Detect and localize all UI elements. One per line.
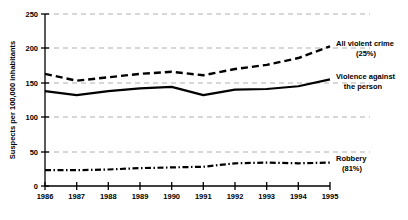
y-tick-label-50: 50 <box>30 148 38 157</box>
y-tick-label-250: 250 <box>25 10 38 19</box>
x-tick-label-1988: 1988 <box>100 192 117 201</box>
x-tick-label-1992: 1992 <box>227 192 244 201</box>
x-tick-label-1986: 1986 <box>37 192 54 201</box>
chart-container: 250 200 150 100 50 0 Suspects per 100,00… <box>0 0 408 220</box>
legend-label-violence-against-the-person-line1: Violence against <box>336 72 396 81</box>
line-chart: 250 200 150 100 50 0 Suspects per 100,00… <box>0 0 408 220</box>
y-tick-label-0: 0 <box>34 182 38 191</box>
x-tick-label-1991: 1991 <box>195 192 212 201</box>
x-tick-label-1995: 1995 <box>322 192 339 201</box>
legend-robbery: Robbery (81%) <box>336 154 367 173</box>
legend-label-robbery-line1: Robbery <box>336 154 367 163</box>
x-tick-label-1993: 1993 <box>258 192 275 201</box>
series-line-robbery <box>45 163 330 171</box>
legend-label-all-violent-crime-line1: All violent crime <box>336 39 394 48</box>
y-axis-title: Suspects per 100,000 inhabitants <box>8 41 17 159</box>
gridlines <box>45 14 370 152</box>
series-line-violence-against-the-person <box>45 79 330 95</box>
legend-label-robbery-line2: (81%) <box>342 164 363 173</box>
x-tick-label-1989: 1989 <box>132 192 149 201</box>
series-line-all-violent-crime <box>45 46 330 80</box>
legend-label-all-violent-crime-line2: (25%) <box>356 49 377 58</box>
x-tick-label-1987: 1987 <box>68 192 85 201</box>
y-tick-label-100: 100 <box>25 113 38 122</box>
y-tick-label-150: 150 <box>25 79 38 88</box>
x-tick-label-1990: 1990 <box>163 192 180 201</box>
x-tick-label-1994: 1994 <box>290 192 308 201</box>
legend-violence-against-the-person: Violence against the person <box>336 72 396 91</box>
y-tick-label-200: 200 <box>25 44 38 53</box>
legend-label-violence-against-the-person-line2: the person <box>344 82 383 91</box>
